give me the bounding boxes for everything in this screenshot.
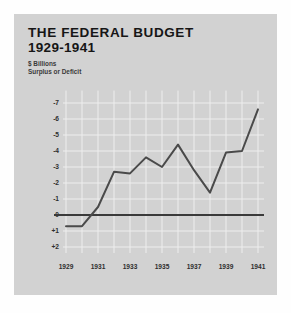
svg-text:-7: -7 (53, 99, 59, 106)
svg-text:-3: -3 (53, 163, 59, 170)
svg-text:1935: 1935 (155, 263, 170, 270)
svg-text:-5: -5 (53, 131, 59, 138)
grid-lines (63, 91, 264, 253)
svg-text:1933: 1933 (123, 263, 138, 270)
svg-text:+2: +2 (51, 243, 59, 250)
svg-text:1929: 1929 (59, 263, 74, 270)
svg-text:-1: -1 (53, 195, 59, 202)
y-axis-tick-labels: -7-6-5-4-3-2-10+1+2 (51, 99, 59, 250)
svg-text:-6: -6 (53, 115, 59, 122)
svg-text:1931: 1931 (91, 263, 106, 270)
chart-figure: THE FEDERAL BUDGET 1929-1941 $ Billions … (0, 0, 291, 313)
plot-area: -7-6-5-4-3-2-10+1+2 19291931193319351937… (0, 0, 291, 313)
svg-text:+1: +1 (51, 227, 59, 234)
svg-text:-4: -4 (53, 147, 59, 154)
svg-text:1941: 1941 (251, 263, 266, 270)
svg-text:1937: 1937 (187, 263, 202, 270)
svg-text:-2: -2 (53, 179, 59, 186)
line-chart-svg: -7-6-5-4-3-2-10+1+2 19291931193319351937… (0, 0, 291, 313)
x-axis-tick-labels: 1929193119331935193719391941 (59, 263, 266, 270)
svg-text:1939: 1939 (219, 263, 234, 270)
